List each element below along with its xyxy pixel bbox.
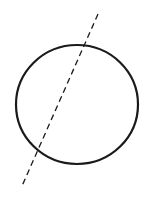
dashed-secant-line [22,14,98,186]
diagram-canvas [0,0,144,206]
